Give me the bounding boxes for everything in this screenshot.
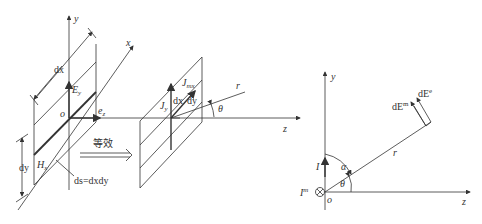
z-axis-label-mid: z (282, 123, 287, 134)
dEm-arrow (411, 102, 426, 126)
dx-small-label: dx (173, 95, 183, 106)
dEe-arrow (417, 98, 431, 122)
diagram-canvas: y x o dx dy Ey Hx ez ds=dxdy 等效 Jy Jmx d… (0, 0, 482, 224)
magnetic-current-label: Im (299, 186, 308, 198)
theta-arc-mid (211, 104, 214, 117)
theta-arc-right (349, 176, 351, 192)
theta-label-mid: θ (218, 103, 223, 114)
ds-label: ds=dxdy (74, 175, 109, 186)
equivalent-label: 等效 (93, 137, 113, 149)
h-field-line (34, 92, 96, 155)
origin-label-right: o (327, 194, 332, 205)
alpha-arc (325, 154, 351, 174)
ez-label: ez (98, 105, 105, 118)
origin-label: o (60, 108, 65, 119)
jy-label: Jy (160, 100, 168, 113)
r-label-right: r (393, 147, 397, 158)
z-axis-label-right: z (461, 196, 466, 207)
y-axis-label: y (73, 13, 79, 24)
r-label-mid: r (236, 80, 240, 91)
huygens-element-diagram: y x o dx dy Ey Hx ez ds=dxdy 等效 Jy Jmx d… (0, 0, 482, 224)
hx-label: Hx (36, 159, 48, 172)
dy-small-label: dy (187, 95, 197, 106)
y-axis-label-right: y (330, 71, 336, 82)
dy-label: dy (19, 162, 29, 173)
right-figure (316, 72, 471, 210)
dx-label: dx (54, 64, 64, 75)
ey-label: Ey (71, 84, 82, 97)
right-plane-figure (140, 57, 300, 188)
dEm-label: dEm (392, 100, 409, 112)
theta-label-right: θ (340, 178, 345, 189)
x-axis-label: x (125, 37, 131, 48)
dEe-label: dEe (418, 87, 432, 99)
current-label: I (315, 161, 320, 172)
alpha-label: α (341, 161, 347, 172)
jmx-label: Jmx (182, 77, 196, 90)
field-box (414, 106, 431, 126)
